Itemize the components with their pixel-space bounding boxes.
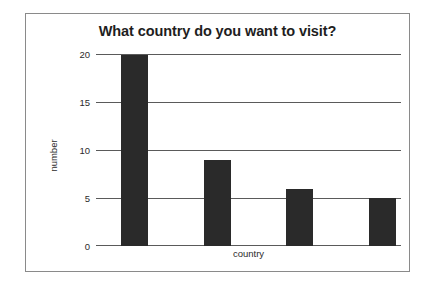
y-tick-label-15: 15	[60, 97, 90, 108]
bar-series-item	[369, 198, 396, 246]
x-axis-title: country	[96, 248, 401, 259]
y-axis-title-container: number	[37, 54, 57, 246]
plot-area	[96, 54, 401, 246]
y-tick-label-0: 0	[60, 241, 90, 252]
bar-series-item	[121, 55, 148, 246]
y-axis-ticks: 20 15 10 5 0	[58, 54, 90, 246]
bar-series-item	[286, 189, 313, 246]
chart-figure: What country do you want to visit? numbe…	[25, 13, 410, 272]
chart-title: What country do you want to visit?	[26, 23, 409, 39]
y-tick-label-5: 5	[60, 193, 90, 204]
y-tick-label-20: 20	[60, 49, 90, 60]
y-axis-title: number	[48, 126, 59, 186]
bar-series-item	[204, 160, 231, 246]
y-tick-label-10: 10	[60, 145, 90, 156]
